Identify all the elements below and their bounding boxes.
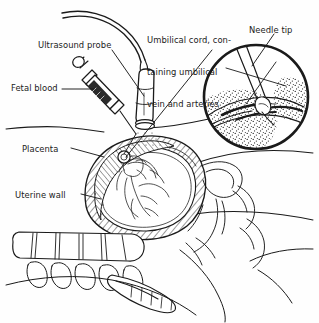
label-umbilical-cord: Umbilical cord, con- taining umbilical v… xyxy=(147,14,231,120)
label-uterine-wall: Uterine wall xyxy=(15,190,66,201)
label-umbilical-cord-line1: Umbilical cord, con- xyxy=(147,35,231,46)
label-needle-tip: Needle tip xyxy=(249,25,292,36)
ultrasound-probe-icon xyxy=(62,11,161,145)
label-ultrasound-probe: Ultrasound probe xyxy=(38,40,111,51)
leader-placenta xyxy=(71,148,104,157)
label-fetal-blood: Fetal blood xyxy=(11,83,58,94)
label-umbilical-cord-line2: taining umbilical xyxy=(147,67,231,78)
label-umbilical-cord-line3: vein and arteries xyxy=(147,99,231,110)
label-placenta: Placenta xyxy=(22,144,58,155)
maternal-spine-vertebrae xyxy=(13,232,176,313)
